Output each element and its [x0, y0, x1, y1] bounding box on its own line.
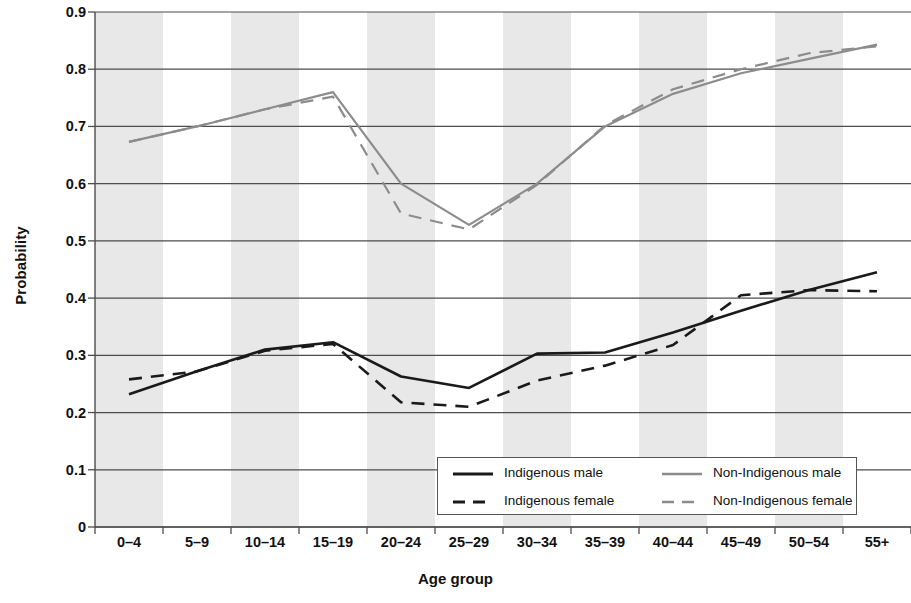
chart-svg — [95, 12, 911, 527]
x-tick-label: 45–49 — [721, 534, 761, 550]
legend-swatch-non-indigenous-male — [661, 466, 703, 478]
legend-label: Indigenous male — [504, 465, 603, 480]
y-tick-label: 0.5 — [40, 233, 86, 249]
legend-label: Non-Indigenous female — [713, 493, 853, 508]
chart-legend: Indigenous maleNon-Indigenous maleIndige… — [437, 457, 857, 515]
background-bands — [95, 12, 843, 527]
legend-entry: Non-Indigenous male — [647, 465, 856, 480]
x-axis-title-label: Age group — [418, 570, 493, 587]
x-tick-label: 5–9 — [185, 534, 209, 550]
y-tick-label: 0.9 — [40, 4, 86, 20]
y-tick-label: 0.7 — [40, 118, 86, 134]
x-tick-label: 35–39 — [585, 534, 625, 550]
legend-swatch-indigenous-female — [452, 494, 494, 506]
legend-grid: Indigenous maleNon-Indigenous maleIndige… — [438, 458, 856, 514]
legend-entry: Non-Indigenous female — [647, 493, 856, 508]
x-tick-label: 15–19 — [313, 534, 353, 550]
legend-label: Indigenous female — [504, 493, 614, 508]
background-band — [503, 12, 571, 527]
background-band — [95, 12, 163, 527]
legend-swatch-non-indigenous-female — [661, 494, 703, 506]
probability-by-age-group-chart: Probability 0.90.80.70.60.50.40.30.20.10… — [0, 0, 911, 603]
x-tick-label: 20–24 — [381, 534, 421, 550]
plot-area — [95, 12, 911, 527]
y-tick-label: 0.1 — [40, 462, 86, 478]
legend-swatch-indigenous-male — [452, 466, 494, 478]
x-tick-label: 40–44 — [653, 534, 693, 550]
background-band — [367, 12, 435, 527]
y-tick-label: 0.3 — [40, 347, 86, 363]
y-tick-label: 0.4 — [40, 290, 86, 306]
legend-entry: Indigenous female — [438, 493, 647, 508]
y-tick-label: 0.6 — [40, 176, 86, 192]
x-tick-label: 55+ — [865, 534, 890, 550]
y-axis-title-label: Probability — [12, 226, 29, 305]
legend-entry: Indigenous male — [438, 465, 647, 480]
background-band — [231, 12, 299, 527]
y-axis-tick-labels: 0.90.80.70.60.50.40.30.20.10 — [28, 0, 86, 540]
y-tick-label: 0 — [40, 519, 86, 535]
x-tick-label: 10–14 — [245, 534, 285, 550]
x-tick-label: 25–29 — [449, 534, 489, 550]
x-tick-label: 30–34 — [517, 534, 557, 550]
y-tick-label: 0.2 — [40, 405, 86, 421]
x-tick-label: 50–54 — [789, 534, 829, 550]
x-axis-title: Age group — [0, 570, 911, 587]
background-band — [775, 12, 843, 527]
legend-label: Non-Indigenous male — [713, 465, 841, 480]
x-tick-label: 0–4 — [117, 534, 141, 550]
y-tick-label: 0.8 — [40, 61, 86, 77]
